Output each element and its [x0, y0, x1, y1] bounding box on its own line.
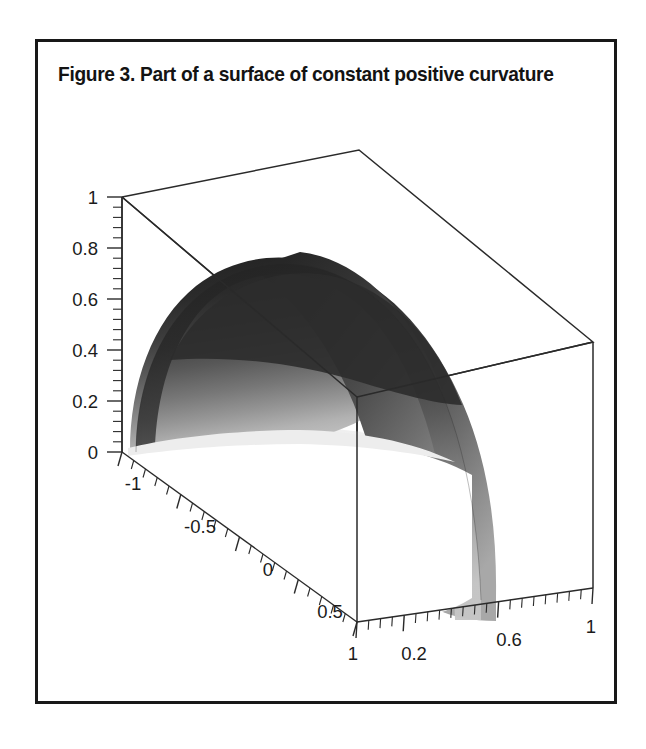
- z-tick-label: 0.6: [72, 289, 98, 310]
- z-tick-label: 0.4: [72, 340, 98, 361]
- surface-plot: 1 0.8 0.6 0.4 0.2 0: [0, 0, 646, 749]
- y-tick-label: 0.2: [401, 643, 427, 664]
- z-tick-label: 0.2: [72, 391, 98, 412]
- x-tick-label: -0.5: [184, 516, 216, 537]
- x-tick-label: 1: [348, 643, 358, 664]
- z-tick-label: 0: [88, 442, 98, 463]
- x-tick-label: 0: [263, 559, 273, 580]
- surface-foreground-gap: [124, 437, 472, 622]
- surface-plot-svg: 1 0.8 0.6 0.4 0.2 0: [0, 0, 646, 749]
- y-tick-label: 1: [586, 616, 596, 637]
- z-axis-tick-labels: 1 0.8 0.6 0.4 0.2 0: [72, 187, 98, 463]
- z-tick-label: 0.8: [72, 238, 98, 259]
- x-tick-label: 0.5: [317, 601, 343, 622]
- y-tick-label: 0.6: [496, 629, 522, 650]
- curvature-surface: [124, 252, 496, 622]
- z-axis: [107, 197, 122, 452]
- x-tick-label: -1: [125, 473, 141, 494]
- z-tick-label: 1: [88, 187, 98, 208]
- figure-root: Figure 3. Part of a surface of constant …: [0, 0, 646, 749]
- z-axis-minor-ticks: [113, 207, 122, 442]
- y-axis-tick-labels: 0.2 0.6 1: [401, 616, 596, 664]
